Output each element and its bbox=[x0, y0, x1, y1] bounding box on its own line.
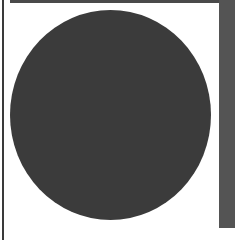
canvas bbox=[0, 0, 235, 240]
right-bar bbox=[219, 0, 235, 228]
left-border-line bbox=[2, 0, 4, 240]
dark-circle bbox=[10, 10, 211, 220]
top-bar bbox=[10, 0, 235, 3]
